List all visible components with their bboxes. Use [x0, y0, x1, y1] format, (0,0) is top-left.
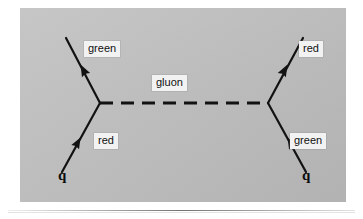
outgoing-quark-right-line [268, 38, 303, 103]
bottom-divider-shadow [8, 212, 355, 213]
label-gluon: gluon [152, 75, 187, 91]
label-upper-left-colour: green [84, 41, 120, 57]
bottom-divider [8, 210, 355, 211]
quark-symbol-right: q [302, 168, 310, 183]
quark-symbol-left: q [58, 168, 66, 183]
diagram-canvas [0, 0, 363, 219]
feynman-diagram-figure: green red gluon red green q q [0, 0, 363, 219]
label-upper-right-colour: red [299, 41, 323, 57]
label-lower-right-colour: green [290, 133, 326, 149]
label-lower-left-colour: red [94, 133, 118, 149]
